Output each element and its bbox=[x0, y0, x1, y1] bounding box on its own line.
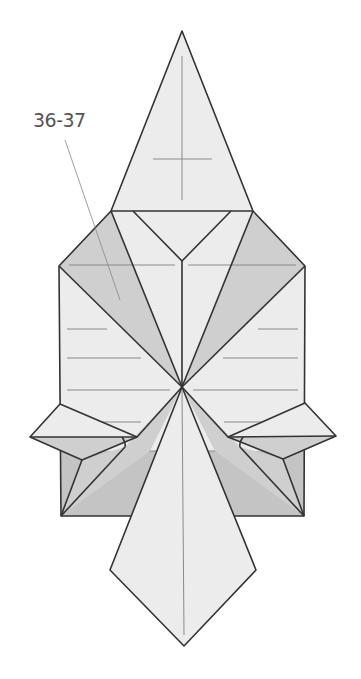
origami-diagram bbox=[0, 0, 361, 679]
step-reference-label: 36-37 bbox=[33, 109, 86, 131]
top-triangle bbox=[111, 31, 253, 211]
